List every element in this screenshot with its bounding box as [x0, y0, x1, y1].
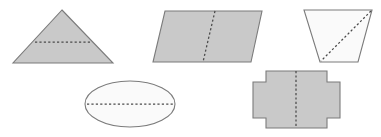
shape-parallelogram [153, 11, 262, 62]
ellipse-outline [85, 81, 175, 127]
parallelogram-outline [153, 11, 262, 62]
shapes-canvas [0, 0, 381, 137]
shape-ellipse [85, 81, 175, 127]
shape-cross [253, 71, 340, 128]
shapes-figure: Shapes with lines of symmetry [0, 0, 381, 137]
